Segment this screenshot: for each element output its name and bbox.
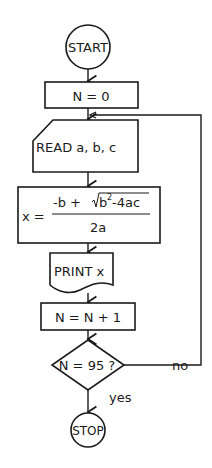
formula-radicand-rest: -4ac [112, 195, 140, 210]
init-process: N = 0 [45, 82, 138, 108]
no-branch-label: no [172, 358, 188, 373]
read-label: READ a, b, c [36, 140, 116, 155]
start-label: START [68, 40, 108, 55]
compute-process: x = -b + b 2 -4ac 2a [18, 187, 160, 243]
yes-branch-label: yes [109, 390, 132, 405]
print-label: PRINT x [54, 264, 105, 279]
formula-lhs: x = [22, 209, 45, 224]
increment-label: N = N + 1 [55, 310, 121, 325]
init-label: N = 0 [72, 89, 109, 104]
formula-numerator-prefix: -b + [53, 195, 81, 210]
start-terminal: START [66, 25, 110, 69]
decision-label: N = 95 ? [59, 358, 115, 373]
print-output: PRINT x [50, 253, 113, 292]
flowchart-canvas: START N = 0 READ a, b, c x = -b + b 2 -4… [0, 0, 212, 468]
decision: N = 95 ? [52, 340, 124, 390]
formula-denominator: 2a [90, 220, 106, 235]
stop-terminal: STOP [71, 413, 105, 447]
read-input: READ a, b, c [33, 120, 138, 172]
increment-process: N = N + 1 [41, 303, 135, 330]
stop-label: STOP [72, 424, 104, 438]
